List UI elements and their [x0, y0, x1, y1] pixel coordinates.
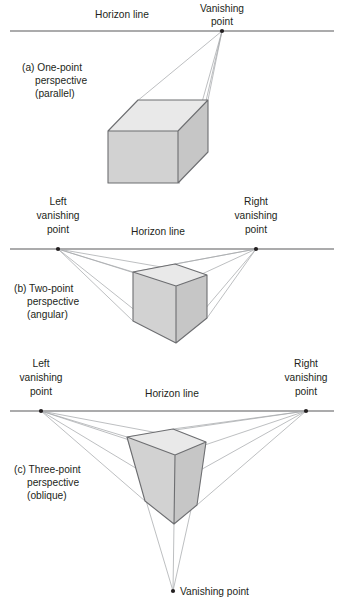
panel-a-caption-line2: perspective	[35, 75, 87, 86]
panel-b-left-vanishing-point-dot	[56, 247, 60, 251]
panel-b-cube	[133, 264, 207, 343]
ray-right-to-right-bottom	[207, 249, 256, 318]
ray-c-right-to-top	[173, 411, 306, 429]
panel-c-right-vp-label-line1: Right	[294, 358, 318, 369]
panel-c-bottom-vp-label: Vanishing point	[180, 586, 249, 597]
panel-b-caption-line2: perspective	[27, 296, 79, 307]
panel-b-caption-line3: (angular)	[27, 309, 68, 320]
panel-a-vanishing-point-label-line1: Vanishing	[200, 3, 244, 14]
panel-b-right-vp-label-line1: Right	[244, 196, 268, 207]
ray-to-top-back-left	[136, 31, 222, 102]
panel-b-right-vp-label-line2: vanishing	[234, 210, 277, 221]
panel-c-left-vp-label-line1: Left	[33, 358, 50, 369]
panel-c-right-vp-label-line2: vanishing	[284, 372, 327, 383]
panel-a-box	[108, 100, 208, 183]
panel-a: Horizon line Vanishing point (a) On	[10, 3, 334, 184]
panel-b-right-vanishing-point-dot	[254, 247, 258, 251]
box-a-front-face	[108, 131, 178, 183]
panel-c-caption-line2: perspective	[27, 477, 79, 488]
panel-c-cube	[127, 429, 206, 524]
panel-b-left-vp-label-line3: point	[47, 224, 69, 235]
figure-canvas: Horizon line Vanishing point (a) On	[0, 0, 344, 614]
perspective-diagram: Horizon line Vanishing point (a) On	[0, 0, 344, 614]
ray-c-left-to-left-top	[41, 411, 127, 437]
panel-c: Left vanishing point Right vanishing poi…	[10, 358, 334, 597]
ray-c-right-to-right-bottom	[197, 411, 306, 505]
panel-a-horizon-label: Horizon line	[95, 9, 149, 20]
panel-c-bottom-vanishing-point-dot	[171, 589, 175, 593]
cube-c-right-face	[174, 442, 206, 524]
panel-b-right-vp-label-line3: point	[245, 224, 267, 235]
panel-a-caption-line1: (a) One-point	[22, 62, 82, 73]
panel-c-caption-line1: (c) Three-point	[14, 464, 81, 475]
ray-edge-right	[208, 31, 222, 100]
panel-c-left-vanishing-point-dot	[39, 409, 43, 413]
panel-c-right-vanishing-point-dot	[304, 409, 308, 413]
panel-b-left-vp-label-line2: vanishing	[36, 210, 79, 221]
panel-c-horizon-label: Horizon line	[145, 388, 199, 399]
ray-right-to-top	[175, 249, 256, 264]
panel-c-left-vp-label-line3: point	[30, 386, 52, 397]
panel-b: Left vanishing point Right vanishing poi…	[10, 196, 334, 343]
panel-a-vanishing-point-dot	[220, 29, 224, 33]
panel-b-horizon-label: Horizon line	[131, 226, 185, 237]
panel-a-caption-line3: (parallel)	[35, 88, 75, 99]
cube-b-right-face	[176, 275, 207, 343]
panel-a-vanishing-point-label-line2: point	[211, 16, 233, 27]
panel-b-left-vp-label-line1: Left	[50, 196, 67, 207]
panel-c-caption-line3: (oblique)	[27, 490, 67, 501]
panel-c-left-vp-label-line2: vanishing	[19, 372, 62, 383]
panel-c-right-vp-label-line3: point	[295, 386, 317, 397]
panel-b-caption-line1: (b) Two-point	[14, 283, 73, 294]
